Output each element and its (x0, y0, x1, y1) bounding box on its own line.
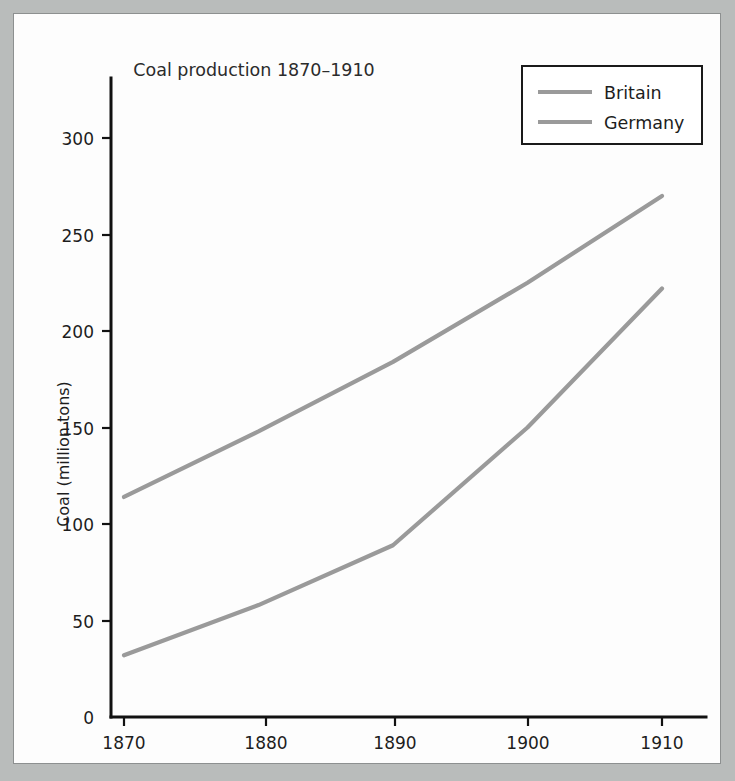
y-tick-label-250: 250 (62, 226, 94, 246)
y-tick-label-200: 200 (62, 322, 94, 342)
x-tick-label-1900: 1900 (506, 733, 549, 753)
legend-label-germany: Germany (604, 113, 684, 133)
x-tick-label-1870: 1870 (102, 733, 145, 753)
y-axis-label: Coal (million tons) (54, 381, 73, 527)
figure-card: Coal production 1870–1910 Coal (million … (13, 13, 721, 764)
chart-title: Coal production 1870–1910 (133, 60, 374, 80)
y-tick-label-50: 50 (72, 612, 94, 632)
x-tick-label-1890: 1890 (373, 733, 416, 753)
y-tick-label-100: 100 (62, 515, 94, 535)
series-line-britain (124, 196, 662, 497)
y-axis-tick-labels: 300 250 200 150 100 50 0 (62, 129, 94, 728)
y-tick-label-150: 150 (62, 419, 94, 439)
x-tick-label-1880: 1880 (244, 733, 287, 753)
y-tick-label-0: 0 (83, 708, 94, 728)
x-tick-label-1910: 1910 (640, 733, 683, 753)
page-root: Coal production 1870–1910 Coal (million … (0, 0, 735, 781)
legend: Britain Germany (522, 66, 702, 144)
y-tick-label-300: 300 (62, 129, 94, 149)
line-chart: Coal production 1870–1910 Coal (million … (14, 14, 720, 763)
x-axis-tick-labels: 1870 1880 1890 1900 1910 (102, 733, 683, 753)
legend-label-britain: Britain (604, 83, 662, 103)
series-line-germany (124, 289, 662, 656)
